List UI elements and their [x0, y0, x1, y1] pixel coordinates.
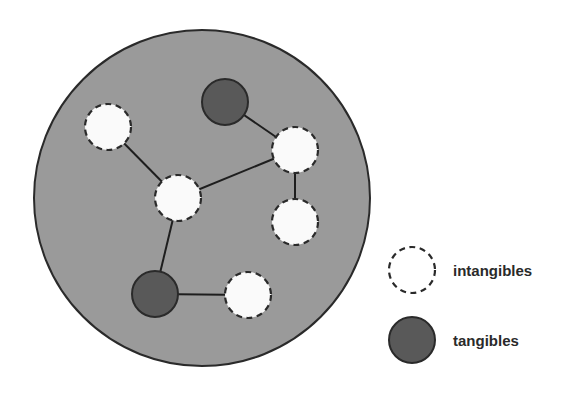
tangible-node-n6 — [132, 271, 178, 317]
intangible-node-n3 — [272, 127, 318, 173]
legend-item-tangibles: tangibles — [389, 317, 519, 363]
intangible-node-n7 — [225, 272, 271, 318]
legend-label-intangibles: intangibles — [453, 262, 532, 279]
network-diagram: intangibles tangibles — [0, 0, 570, 393]
intangible-symbol-icon — [389, 247, 435, 293]
legend-label-tangibles: tangibles — [453, 332, 519, 349]
legend: intangibles tangibles — [389, 247, 532, 363]
tangible-node-n2 — [202, 79, 248, 125]
legend-item-intangibles: intangibles — [389, 247, 532, 293]
intangible-node-n5 — [272, 199, 318, 245]
intangible-node-n1 — [85, 104, 131, 150]
tangible-symbol-icon — [389, 317, 435, 363]
intangible-node-n4 — [155, 175, 201, 221]
